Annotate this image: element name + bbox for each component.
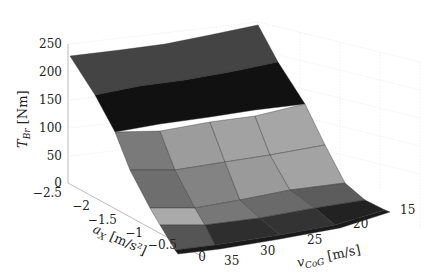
svg-text:25: 25 bbox=[307, 233, 322, 247]
svg-text:−2: −2 bbox=[72, 199, 90, 213]
svg-text:100: 100 bbox=[39, 121, 62, 135]
svg-text:−2.5: −2.5 bbox=[33, 186, 62, 200]
svg-text:150: 150 bbox=[39, 93, 62, 107]
svg-text:30: 30 bbox=[260, 244, 275, 258]
surface bbox=[70, 25, 390, 254]
y-axis-label: vCoG [m/s] bbox=[296, 242, 363, 272]
svg-text:0: 0 bbox=[198, 250, 206, 264]
svg-text:15: 15 bbox=[400, 203, 415, 217]
svg-text:200: 200 bbox=[39, 65, 62, 79]
svg-text:250: 250 bbox=[39, 37, 62, 51]
svg-text:−0.5: −0.5 bbox=[148, 238, 177, 252]
surface-plot: 250 200 150 100 50 0 TBr [Nm] −2.5 −2 −1… bbox=[0, 0, 430, 279]
z-axis-label: TBr [Nm] bbox=[15, 90, 32, 148]
svg-text:35: 35 bbox=[224, 254, 239, 268]
svg-text:20: 20 bbox=[353, 217, 368, 231]
z-ticks: 250 200 150 100 50 0 bbox=[39, 37, 62, 190]
svg-text:50: 50 bbox=[47, 149, 62, 163]
